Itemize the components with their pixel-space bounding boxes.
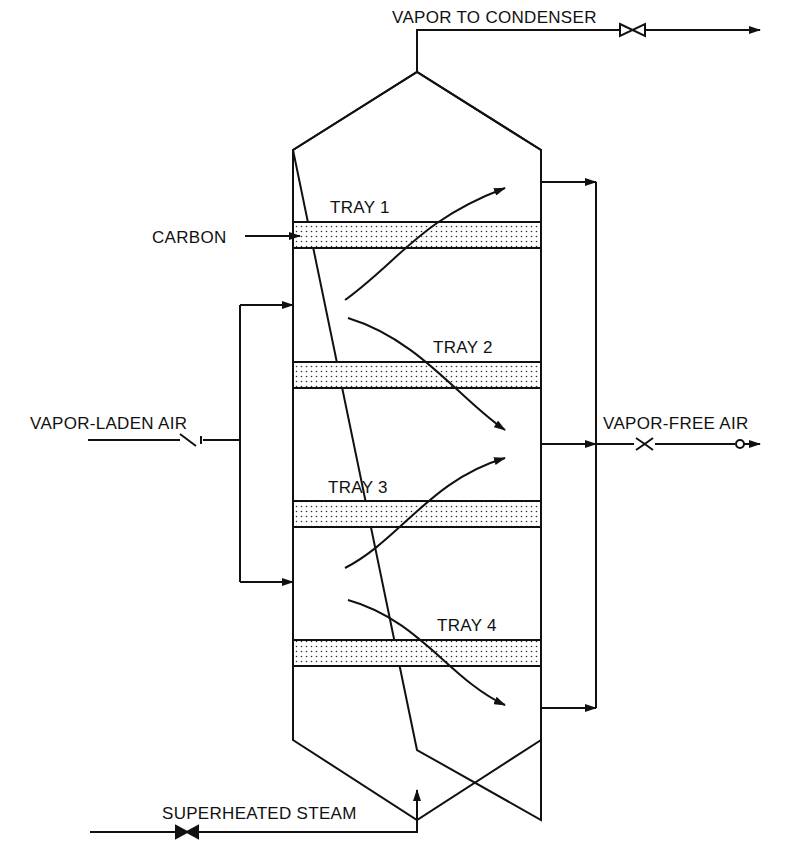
label-vapor-free-air: VAPOR-FREE AIR: [603, 414, 749, 434]
label-tray-2: TRAY 2: [433, 338, 493, 358]
label-vapor-laden-air: VAPOR-LADEN AIR: [30, 414, 187, 434]
tray-3: [293, 501, 541, 527]
steam-valve-icon: [176, 826, 198, 838]
vapor-free-valve-icon: [636, 438, 653, 450]
label-tray-1: TRAY 1: [330, 198, 390, 218]
tray-2: [293, 362, 541, 388]
label-vapor-to-condenser: VAPOR TO CONDENSER: [392, 8, 597, 28]
label-carbon: CARBON: [152, 228, 227, 248]
label-tray-4: TRAY 4: [437, 616, 497, 636]
condenser-valve-icon: [620, 24, 645, 36]
tray-1: [293, 222, 541, 248]
tray-4: [293, 640, 541, 666]
label-superheated-steam: SUPERHEATED STEAM: [162, 804, 357, 824]
column-vessel: [293, 72, 541, 820]
label-tray-3: TRAY 3: [328, 478, 388, 498]
condenser-pipe: [417, 30, 620, 72]
adsorber-diagram: VAPOR TO CONDENSER TRAY 1 CARBON TRAY 2 …: [0, 0, 804, 859]
